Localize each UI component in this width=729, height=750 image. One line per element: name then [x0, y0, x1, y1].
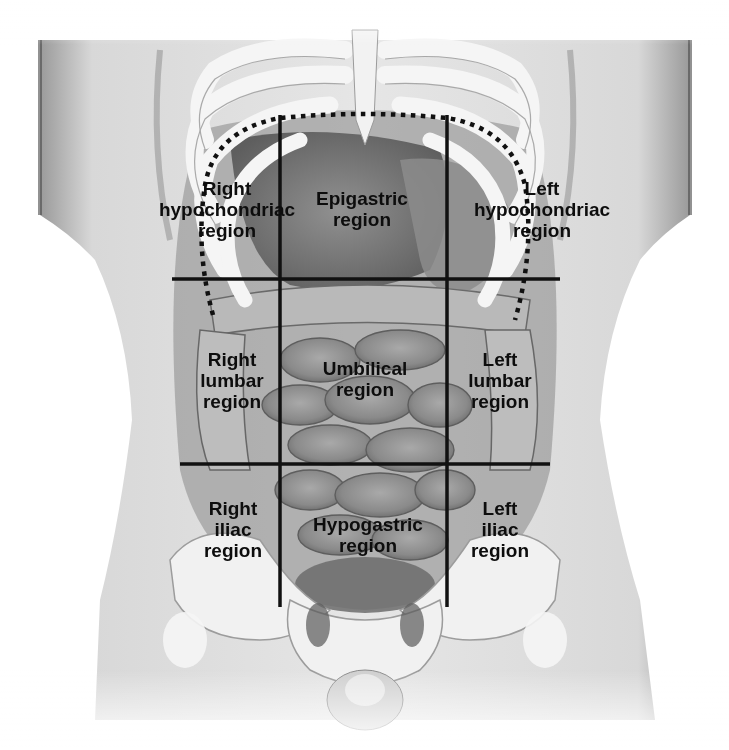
label-line: region: [471, 540, 529, 561]
label-left-lumbar-region: Left lumbar region: [468, 349, 531, 412]
label-line: region: [316, 209, 408, 230]
label-hypogastric-region: Hypogastric region: [313, 514, 423, 556]
label-line: region: [474, 220, 610, 241]
label-line: Hypogastric: [313, 514, 423, 535]
label-line: region: [313, 535, 423, 556]
label-line: lumbar: [468, 370, 531, 391]
label-line: region: [204, 540, 262, 561]
label-left-hypochondriac-region: Left hypochondriac region: [474, 178, 610, 241]
label-right-lumbar-region: Right lumbar region: [200, 349, 263, 412]
label-right-iliac-region: Right iliac region: [204, 498, 262, 561]
label-line: region: [468, 391, 531, 412]
label-line: Right: [200, 349, 263, 370]
label-line: iliac: [204, 519, 262, 540]
label-line: region: [200, 391, 263, 412]
label-umbilical-region: Umbilical region: [323, 358, 407, 400]
label-line: Left: [468, 349, 531, 370]
label-line: Epigastric: [316, 188, 408, 209]
label-line: Umbilical: [323, 358, 407, 379]
abdominal-regions-diagram: Right hypochondriac region Epigastric re…: [0, 0, 729, 750]
label-line: hypochondriac: [159, 199, 295, 220]
label-left-iliac-region: Left iliac region: [471, 498, 529, 561]
label-line: Right: [204, 498, 262, 519]
label-line: iliac: [471, 519, 529, 540]
label-epigastric-region: Epigastric region: [316, 188, 408, 230]
label-line: Left: [471, 498, 529, 519]
label-right-hypochondriac-region: Right hypochondriac region: [159, 178, 295, 241]
label-line: Right: [159, 178, 295, 199]
label-line: region: [323, 379, 407, 400]
label-line: Left: [474, 178, 610, 199]
label-line: lumbar: [200, 370, 263, 391]
label-line: hypochondriac: [474, 199, 610, 220]
label-line: region: [159, 220, 295, 241]
